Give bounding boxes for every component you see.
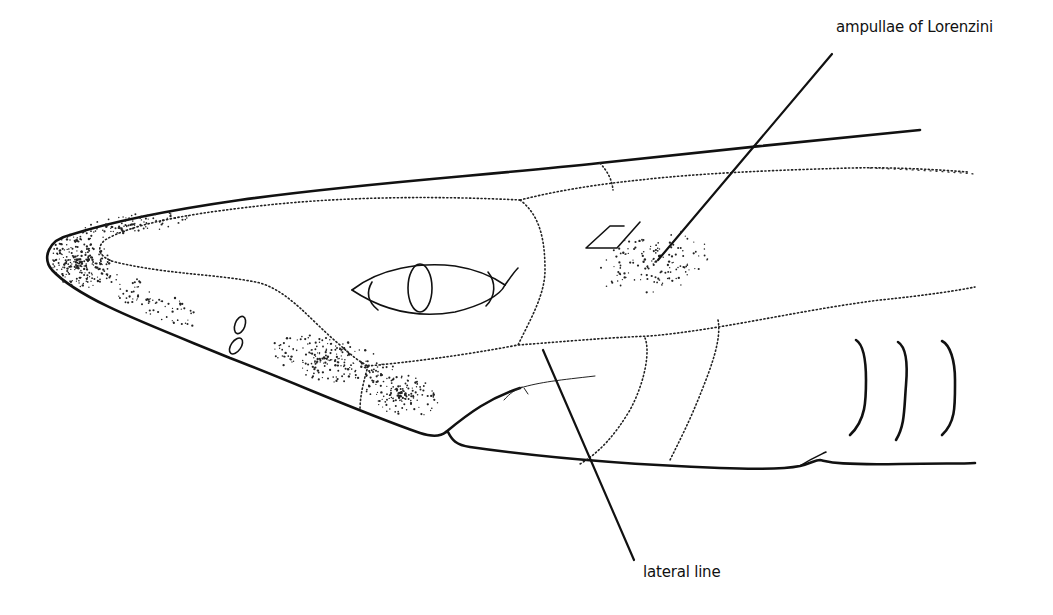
dorsal-outline (70, 130, 920, 235)
orbital-boundary (518, 200, 545, 345)
snout-stipple (52, 212, 195, 327)
throat-fold (800, 452, 826, 466)
cheek-segment-left (360, 366, 368, 410)
lateral-line-leader-line (543, 350, 634, 560)
shark-head-illustration (0, 0, 1053, 615)
cheek-stipple (274, 334, 439, 415)
gill-slit-3 (942, 341, 955, 435)
pupil (408, 264, 432, 312)
upper-boundary (520, 168, 968, 200)
cheek-segment-right (670, 320, 719, 460)
gill-slits (850, 340, 955, 440)
nostril (227, 315, 248, 356)
lateral-line-label: lateral line (643, 563, 720, 581)
spiracle (586, 222, 640, 248)
ampullae-leader-line (658, 54, 832, 260)
gill-slit-1 (850, 340, 866, 435)
ampullae-stipple (600, 231, 708, 294)
ampullae-label: ampullae of Lorenzini (836, 18, 993, 36)
eye (352, 264, 518, 314)
cheek-segment-mid (580, 338, 647, 464)
lower-boundary (368, 287, 975, 366)
gill-slit-2 (896, 342, 907, 440)
dorsal-segment-line (600, 163, 613, 190)
